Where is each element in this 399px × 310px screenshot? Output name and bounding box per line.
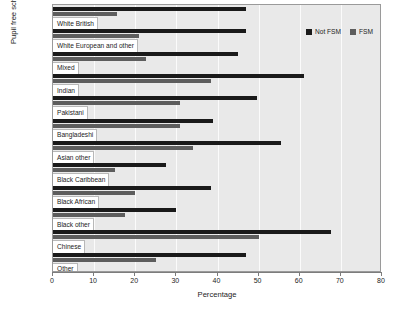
y-axis-title: Pupil free school meal eligibility <box>9 0 18 44</box>
bar-row: Pakistani <box>53 94 380 116</box>
x-axis-title: Percentage <box>52 290 382 299</box>
bar-fsm <box>53 258 156 262</box>
plot-area: White BritishWhite European and otherMix… <box>52 4 381 272</box>
bar-fsm <box>53 146 193 150</box>
x-tick <box>217 272 218 276</box>
chart-legend: Not FSMFSM <box>306 28 373 35</box>
bar-not-fsm <box>53 119 213 123</box>
x-tick <box>299 272 300 276</box>
bar-not-fsm <box>53 29 246 33</box>
x-tick-label: 70 <box>336 277 344 284</box>
bar-fsm <box>53 235 259 239</box>
x-tick <box>381 272 382 276</box>
x-tick <box>175 272 176 276</box>
bar-row: White British <box>53 5 380 27</box>
legend-label: Not FSM <box>315 28 341 35</box>
bar-row: Black African <box>53 184 380 206</box>
x-tick <box>258 272 259 276</box>
x-tick <box>93 272 94 276</box>
bar-fsm <box>53 101 180 105</box>
bar-fsm <box>53 57 146 61</box>
bar-fsm <box>53 124 180 128</box>
bar-row: Other <box>53 251 380 272</box>
bar-row: Bangladeshi <box>53 117 380 139</box>
legend-swatch-icon <box>306 29 312 35</box>
bar-fsm <box>53 12 117 16</box>
bar-fsm <box>53 213 125 217</box>
legend-item: Not FSM <box>306 28 341 35</box>
bar-not-fsm <box>53 7 246 11</box>
bar-fsm <box>53 168 115 172</box>
x-tick-label: 80 <box>377 277 385 284</box>
x-tick-label: 0 <box>50 277 54 284</box>
x-tick <box>52 272 53 276</box>
bar-fsm <box>53 79 211 83</box>
bar-row: Asian other <box>53 139 380 161</box>
bar-not-fsm <box>53 230 331 234</box>
category-label: Other <box>53 263 78 272</box>
x-tick-label: 50 <box>254 277 262 284</box>
x-tick-label: 60 <box>295 277 303 284</box>
bar-fsm <box>53 34 139 38</box>
x-tick <box>340 272 341 276</box>
bar-not-fsm <box>53 52 238 56</box>
legend-item: FSM <box>350 28 373 35</box>
bar-not-fsm <box>53 163 166 167</box>
x-tick-label: 10 <box>89 277 97 284</box>
bar-not-fsm <box>53 141 281 145</box>
bar-not-fsm <box>53 74 304 78</box>
x-tick-label: 20 <box>130 277 138 284</box>
bar-row: Mixed <box>53 50 380 72</box>
x-tick-label: 40 <box>213 277 221 284</box>
bar-row: Indian <box>53 72 380 94</box>
bar-fsm <box>53 191 135 195</box>
legend-label: FSM <box>359 28 373 35</box>
x-tick <box>134 272 135 276</box>
bar-not-fsm <box>53 208 176 212</box>
bar-row: Chinese <box>53 228 380 250</box>
bar-row: Black other <box>53 206 380 228</box>
bar-not-fsm <box>53 96 257 100</box>
bar-not-fsm <box>53 186 211 190</box>
legend-swatch-icon <box>350 29 356 35</box>
chart-figure: White BritishWhite European and otherMix… <box>0 0 399 310</box>
bar-row: Black Caribbean <box>53 161 380 183</box>
bar-not-fsm <box>53 253 246 257</box>
x-tick-label: 30 <box>171 277 179 284</box>
bar-rows: White BritishWhite European and otherMix… <box>53 5 380 271</box>
